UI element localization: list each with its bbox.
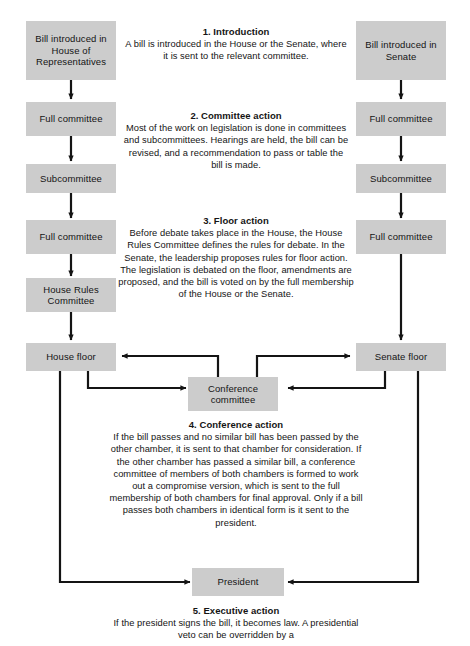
box-senate-subcommittee[interactable]: Subcommittee [356, 164, 446, 193]
stage-executive-action-body: If the president signs the bill, it beco… [113, 617, 359, 641]
box-senate-intro[interactable]: Bill introduced in Senate [356, 21, 446, 80]
stage-conference-action: 4. Conference action If the bill passes … [107, 419, 365, 529]
stage-committee-action-title: 2. Committee action [123, 110, 349, 122]
stage-floor-action-body: Before debate takes place in the House, … [118, 227, 354, 300]
stage-committee-action: 2. Committee action Most of the work on … [123, 110, 349, 171]
box-senate-floor[interactable]: Senate floor [356, 343, 446, 371]
box-house-rules-committee[interactable]: House Rules Committee [26, 278, 116, 312]
box-house-floor[interactable]: House floor [26, 343, 116, 371]
stage-executive-action: 5. Executive action If the president sig… [113, 605, 359, 642]
box-house-full-committee-1[interactable]: Full committee [26, 102, 116, 136]
flowchart-connectors [0, 0, 470, 646]
box-president[interactable]: President [192, 568, 284, 596]
stage-conference-action-body: If the bill passes and no similar bill h… [107, 431, 365, 529]
arrow-house-floor-to-conference [88, 371, 186, 388]
stage-introduction-title: 1. Introduction [123, 26, 349, 38]
box-senate-full-committee-1[interactable]: Full committee [356, 102, 446, 136]
box-senate-full-committee-2[interactable]: Full committee [356, 220, 446, 254]
arrow-conference-to-senate-floor [257, 356, 350, 377]
stage-introduction: 1. Introduction A bill is introduced in … [123, 26, 349, 63]
box-house-full-committee-2[interactable]: Full committee [26, 220, 116, 254]
stage-executive-action-title: 5. Executive action [113, 605, 359, 617]
arrow-conference-to-house-floor [122, 356, 218, 377]
box-conference-committee[interactable]: Conference committee [188, 377, 278, 411]
bill-to-law-flowchart: Bill introduced in House of Representati… [0, 0, 470, 646]
box-house-intro[interactable]: Bill introduced in House of Representati… [26, 21, 116, 80]
stage-committee-action-body: Most of the work on legislation is done … [123, 122, 349, 171]
stage-floor-action-title: 3. Floor action [118, 215, 354, 227]
stage-conference-action-title: 4. Conference action [107, 419, 365, 431]
stage-introduction-body: A bill is introduced in the House or the… [123, 38, 349, 62]
arrow-senate-floor-to-conference [288, 371, 385, 388]
box-house-subcommittee[interactable]: Subcommittee [26, 164, 116, 193]
stage-floor-action: 3. Floor action Before debate takes plac… [118, 215, 354, 300]
